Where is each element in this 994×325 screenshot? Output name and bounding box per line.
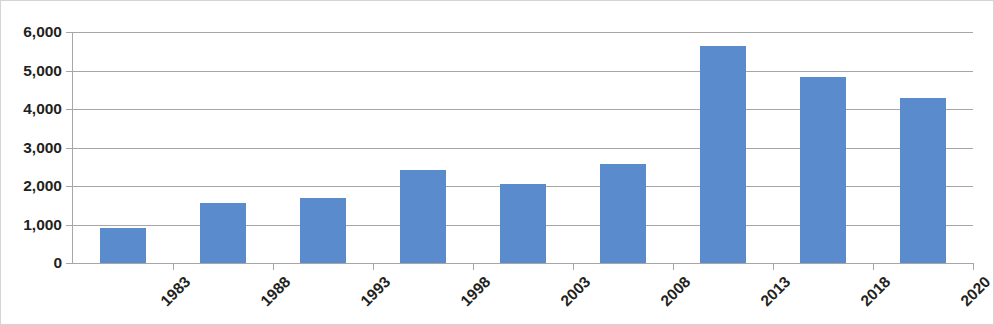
x-axis-tick (273, 263, 274, 270)
bar[interactable] (900, 98, 946, 263)
bar[interactable] (100, 228, 146, 263)
y-axis-tick (66, 148, 73, 149)
bar-slot (673, 32, 773, 263)
y-axis-tick-label: 0 (2, 254, 62, 272)
x-axis-tick (673, 263, 674, 270)
y-axis-tick (66, 186, 73, 187)
plot-area (73, 32, 973, 263)
x-axis-tick-label: 2020 (957, 273, 994, 310)
bar-slot (273, 32, 373, 263)
x-axis-tick-label: 1993 (357, 273, 394, 310)
x-axis-tick (173, 263, 174, 270)
x-axis-tick-label: 2018 (857, 273, 894, 310)
y-axis-labels: 01,0002,0003,0004,0005,0006,000 (1, 1, 62, 325)
y-axis-tick (66, 109, 73, 110)
bar[interactable] (500, 184, 546, 263)
bar[interactable] (800, 77, 846, 263)
axis-baseline (73, 263, 973, 264)
bar[interactable] (700, 46, 746, 263)
x-axis-tick-label: 1983 (157, 273, 194, 310)
y-axis-tick-label: 2,000 (2, 177, 62, 195)
y-axis-tick-label: 3,000 (2, 139, 62, 157)
bar-slot (473, 32, 573, 263)
x-axis-tick-label: 2003 (557, 273, 594, 310)
x-axis-tick-label: 2008 (657, 273, 694, 310)
y-axis-tick-label: 6,000 (2, 23, 62, 41)
y-axis-tick (66, 225, 73, 226)
bar[interactable] (200, 203, 246, 263)
bar[interactable] (400, 170, 446, 263)
x-axis-tick (473, 263, 474, 270)
y-axis-tick-label: 4,000 (2, 100, 62, 118)
bar[interactable] (600, 164, 646, 263)
bar-chart: 01,0002,0003,0004,0005,0006,000 19831988… (0, 0, 994, 325)
bar-slot (873, 32, 973, 263)
x-axis-tick (873, 263, 874, 270)
x-axis-tick (373, 263, 374, 270)
x-axis-tick (973, 263, 974, 270)
y-axis-tick-label: 5,000 (2, 62, 62, 80)
x-axis-tick-label: 1998 (457, 273, 494, 310)
y-axis-tick-label: 1,000 (2, 216, 62, 234)
x-axis-tick (573, 263, 574, 270)
y-axis-tick (66, 32, 73, 33)
bar-slot (573, 32, 673, 263)
x-axis-tick-label: 1988 (257, 273, 294, 310)
x-axis-tick-label: 2013 (757, 273, 794, 310)
y-axis-tick (66, 263, 73, 264)
x-axis-tick (773, 263, 774, 270)
y-axis-tick (66, 71, 73, 72)
bar-slot (773, 32, 873, 263)
bar-slot (173, 32, 273, 263)
bar[interactable] (300, 198, 346, 263)
bar-slot (73, 32, 173, 263)
bar-slot (373, 32, 473, 263)
